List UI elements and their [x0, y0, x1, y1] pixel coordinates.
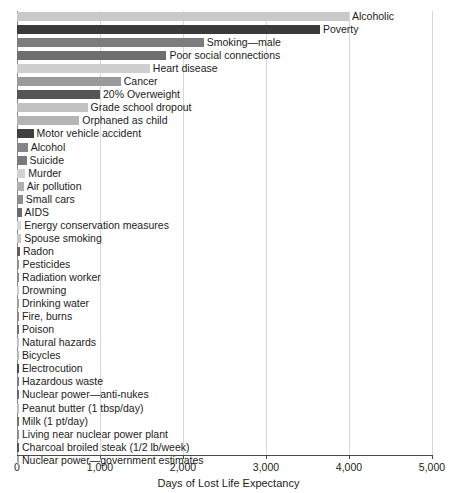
bar	[17, 234, 21, 243]
bar-label: Drowning	[22, 284, 66, 296]
bar-row: Bicycles	[0, 350, 457, 363]
bar	[17, 377, 19, 386]
bar-row: Peanut butter (1 tbsp/day)	[0, 403, 457, 416]
bar-row: Grade school dropout	[0, 102, 457, 115]
bar	[17, 286, 19, 295]
bar-row: Pesticides	[0, 259, 457, 272]
bar	[17, 38, 204, 47]
bar-label: Nuclear power—government estimates	[22, 454, 204, 466]
bar	[17, 456, 19, 465]
bar-row: Spouse smoking	[0, 233, 457, 246]
bar-row: Milk (1 pt/day)	[0, 416, 457, 429]
bar-row: Electrocution	[0, 363, 457, 376]
bar-label: Small cars	[26, 193, 75, 205]
bar	[17, 443, 19, 452]
bar-label: Living near nuclear power plant	[22, 428, 168, 440]
bar-label: Murder	[28, 167, 61, 179]
bar	[17, 90, 100, 99]
bar-row: Suicide	[0, 155, 457, 168]
bar	[17, 156, 27, 165]
bar-row: AIDS	[0, 207, 457, 220]
bar-row: Nuclear power—government estimates	[0, 455, 457, 468]
bar	[17, 351, 19, 360]
bar	[17, 208, 22, 217]
bar-row: Radiation worker	[0, 272, 457, 285]
bar	[17, 417, 19, 426]
bar	[17, 116, 79, 125]
bar-label: Poverty	[323, 23, 359, 35]
bar-label: Drinking water	[22, 297, 89, 309]
bar	[17, 338, 19, 347]
bar	[17, 260, 19, 269]
bar-label: Heart disease	[153, 62, 218, 74]
bar-row: Motor vehicle accident	[0, 128, 457, 141]
bar-row: Poor social connections	[0, 50, 457, 63]
bar-label: Bicycles	[22, 349, 61, 361]
bar	[17, 12, 349, 21]
bar-label: Air pollution	[27, 180, 82, 192]
bar-row: Cancer	[0, 76, 457, 89]
bar-chart: Days of Lost Life Expectancy 01,0002,000…	[0, 0, 457, 493]
bar-label: Energy conservation measures	[24, 219, 169, 231]
bar	[17, 182, 24, 191]
bar-label: Electrocution	[22, 362, 83, 374]
bar-row: Alcohol	[0, 142, 457, 155]
bar	[17, 143, 28, 152]
bar-row: Nuclear power—anti-nukes	[0, 389, 457, 402]
bar-row: Natural hazards	[0, 337, 457, 350]
bar-label: AIDS	[25, 206, 50, 218]
bar-label: Poison	[22, 323, 54, 335]
bar	[17, 247, 20, 256]
bar-label: Natural hazards	[22, 336, 96, 348]
bar	[17, 195, 23, 204]
bar	[17, 430, 19, 439]
bar-row: Drowning	[0, 285, 457, 298]
bar	[17, 64, 150, 73]
bar-row: Fire, burns	[0, 311, 457, 324]
bar-label: Charcoal broiled steak (1/2 lb/week)	[22, 441, 190, 453]
bar-label: Alcohol	[31, 141, 65, 153]
bar-label: Pesticides	[22, 258, 70, 270]
bar-label: Suicide	[30, 154, 64, 166]
bar-label: Nuclear power—anti-nukes	[22, 388, 149, 400]
bar-row: Murder	[0, 168, 457, 181]
bar	[17, 299, 19, 308]
bar-row: Heart disease	[0, 63, 457, 76]
bar-row: Hazardous waste	[0, 376, 457, 389]
bar-label: Smoking—male	[207, 36, 281, 48]
bar-label: Alcoholic	[352, 10, 394, 22]
bar-label: Radon	[23, 245, 54, 257]
bar-label: Radiation worker	[22, 271, 101, 283]
bar-label: Orphaned as child	[82, 114, 167, 126]
bar-row: Poison	[0, 324, 457, 337]
bar-label: Milk (1 pt/day)	[22, 415, 88, 427]
bar	[17, 25, 320, 34]
bar	[17, 390, 19, 399]
bar-label: Peanut butter (1 tbsp/day)	[22, 402, 143, 414]
x-axis-title: Days of Lost Life Expectancy	[0, 477, 457, 489]
bar-row: Small cars	[0, 194, 457, 207]
bar-label: Hazardous waste	[22, 375, 103, 387]
bar	[17, 312, 19, 321]
bar-label: Spouse smoking	[24, 232, 102, 244]
bar	[17, 325, 19, 334]
bar	[17, 364, 19, 373]
bar-label: Poor social connections	[169, 49, 280, 61]
bar-row: Energy conservation measures	[0, 220, 457, 233]
bar-label: Fire, burns	[22, 310, 72, 322]
bar-label: Motor vehicle accident	[37, 127, 141, 139]
bar-label: Grade school dropout	[91, 101, 192, 113]
bar-row: Orphaned as child	[0, 115, 457, 128]
bar	[17, 129, 34, 138]
bar	[17, 51, 166, 60]
bar	[17, 103, 88, 112]
bar-label: 20% Overweight	[103, 88, 180, 100]
bar	[17, 169, 25, 178]
bar-row: Poverty	[0, 24, 457, 37]
bar-row: Alcoholic	[0, 11, 457, 24]
bar-row: Living near nuclear power plant	[0, 429, 457, 442]
bar	[17, 404, 19, 413]
bar-row: Air pollution	[0, 181, 457, 194]
bar	[17, 221, 21, 230]
bar-row: Charcoal broiled steak (1/2 lb/week)	[0, 442, 457, 455]
